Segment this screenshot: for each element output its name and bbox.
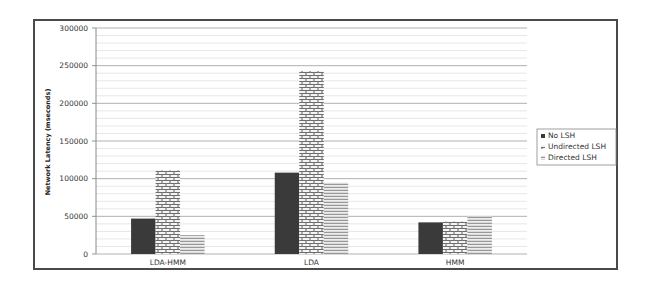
bar-no-lsh: [275, 173, 300, 254]
y-tick-label: 150000: [59, 137, 88, 146]
bar-directed-lsh: [467, 216, 492, 254]
y-axis-label: Network Latency (mseconds): [44, 89, 52, 196]
bar-chart: 050000100000150000200000250000300000 LDA…: [0, 0, 648, 290]
bar-undirected-lsh: [443, 222, 468, 254]
y-tick-label: 300000: [59, 24, 88, 33]
bar-undirected-lsh: [156, 170, 181, 254]
legend: No LSHUndirected LSHDirected LSH: [537, 129, 616, 165]
x-category-label: LDA-HMM: [150, 258, 186, 267]
y-tick-label: 0: [83, 250, 88, 259]
legend-swatch: [541, 156, 545, 160]
y-axis: 050000100000150000200000250000300000: [59, 24, 96, 259]
y-tick-label: 50000: [64, 212, 88, 221]
x-axis-labels: LDA-HMMLDAHMM: [150, 258, 465, 267]
legend-swatch: [541, 134, 545, 138]
bar-no-lsh: [418, 222, 443, 254]
bar-no-lsh: [131, 219, 156, 254]
legend-entry: Undirected LSH: [548, 142, 606, 151]
bar-undirected-lsh: [299, 71, 324, 254]
y-tick-label: 200000: [59, 99, 88, 108]
x-category-label: LDA: [304, 258, 320, 267]
bar-directed-lsh: [324, 182, 349, 254]
legend-swatch: [541, 145, 545, 149]
bars: [131, 71, 492, 254]
legend-entry: Directed LSH: [548, 153, 597, 162]
bar-directed-lsh: [180, 235, 205, 254]
legend-entry: No LSH: [548, 131, 575, 140]
x-category-label: HMM: [446, 258, 465, 267]
y-tick-label: 250000: [59, 61, 88, 70]
y-tick-label: 100000: [59, 174, 88, 183]
